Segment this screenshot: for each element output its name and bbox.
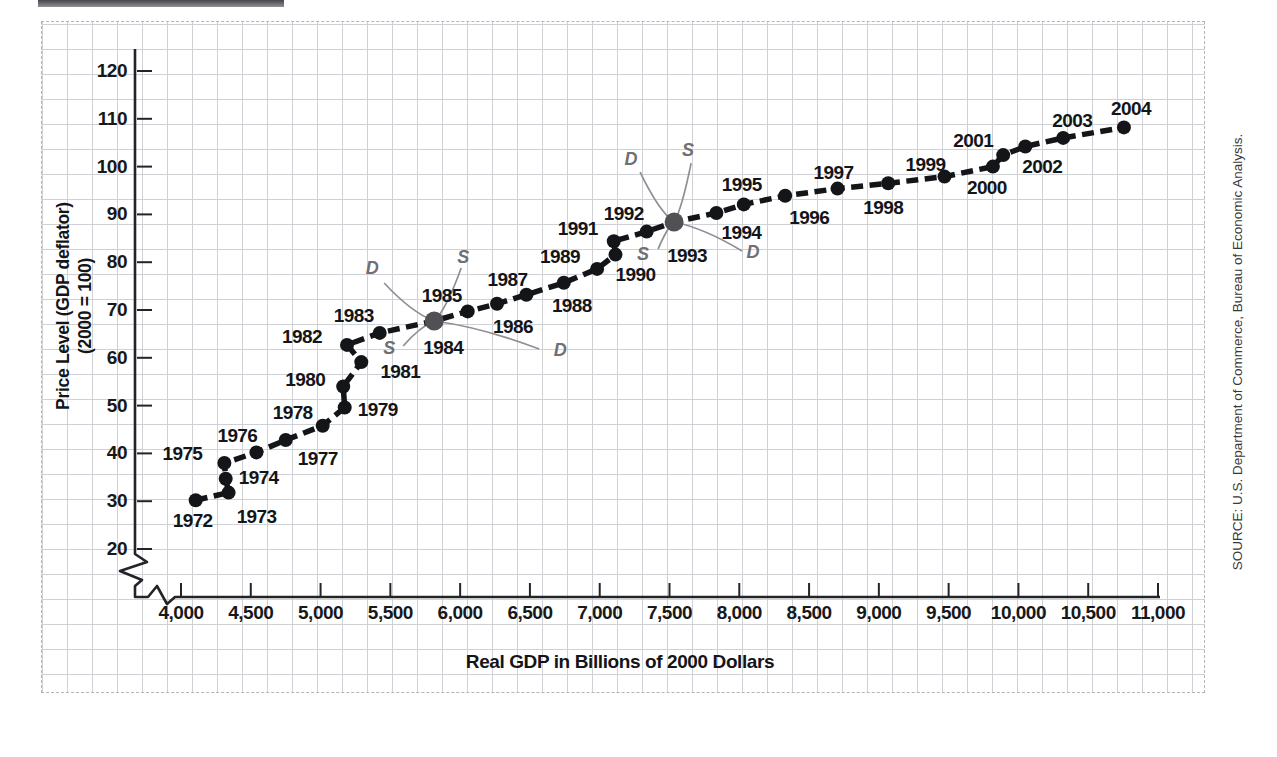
x-tick-label: 7,500 bbox=[647, 602, 692, 624]
y-tick-label: 40 bbox=[85, 442, 127, 464]
data-point-1972 bbox=[189, 493, 203, 507]
year-label-1995: 1995 bbox=[722, 174, 762, 196]
supply-label: S bbox=[637, 244, 649, 265]
year-label-1982: 1982 bbox=[282, 326, 322, 348]
data-point-1989 bbox=[590, 262, 604, 276]
x-tick-label: 11,000 bbox=[1131, 602, 1185, 624]
year-label-1972: 1972 bbox=[173, 510, 213, 532]
y-tick-label: 20 bbox=[85, 538, 127, 560]
x-tick-label: 7,000 bbox=[577, 602, 622, 624]
year-label-1987: 1987 bbox=[488, 269, 528, 291]
year-label-2003: 2003 bbox=[1052, 110, 1092, 132]
data-point-1997 bbox=[831, 182, 845, 196]
year-label-1977: 1977 bbox=[298, 448, 338, 470]
demand-label: D bbox=[554, 339, 567, 360]
supply-curve bbox=[658, 163, 691, 249]
x-tick-label: 6,500 bbox=[507, 602, 552, 624]
year-label-1974: 1974 bbox=[239, 467, 279, 489]
x-tick-label: 9,500 bbox=[926, 602, 971, 624]
data-point-1991 bbox=[607, 234, 621, 248]
x-tick-label: 6,000 bbox=[438, 602, 483, 624]
data-point-1973 bbox=[222, 486, 236, 500]
year-label-2004: 2004 bbox=[1111, 98, 1151, 120]
demand-label: D bbox=[366, 257, 379, 278]
data-point-1975 bbox=[217, 456, 231, 470]
data-point-1976 bbox=[249, 445, 263, 459]
year-label-1992: 1992 bbox=[604, 203, 644, 225]
x-tick-label: 8,000 bbox=[717, 602, 762, 624]
y-axis-title: Price Level (GDP deflator) (2000 = 100) bbox=[52, 202, 96, 410]
data-point-1980 bbox=[336, 380, 350, 394]
year-label-1986: 1986 bbox=[493, 316, 533, 338]
year-label-1998: 1998 bbox=[863, 197, 903, 219]
y-tick-label: 100 bbox=[85, 156, 127, 178]
data-point-1981 bbox=[354, 355, 368, 369]
supply-label: S bbox=[682, 140, 694, 161]
x-tick-label: 9,000 bbox=[856, 602, 901, 624]
demand-label: D bbox=[625, 149, 638, 170]
y-tick-label: 30 bbox=[85, 490, 127, 512]
year-label-1989: 1989 bbox=[540, 246, 580, 268]
data-point-2004 bbox=[1117, 120, 1131, 134]
x-axis-title: Real GDP in Billions of 2000 Dollars bbox=[466, 651, 774, 673]
data-point-1985 bbox=[461, 304, 475, 318]
data-point-1992 bbox=[640, 225, 654, 239]
data-point-1994 bbox=[709, 206, 723, 220]
year-label-1980: 1980 bbox=[285, 369, 325, 391]
year-label-1991: 1991 bbox=[558, 218, 598, 240]
data-point-1988 bbox=[557, 276, 571, 290]
data-point-1984 bbox=[425, 312, 444, 331]
data-point-2000 bbox=[986, 160, 1000, 174]
year-label-2000: 2000 bbox=[967, 177, 1007, 199]
x-tick-label: 4,500 bbox=[228, 602, 273, 624]
year-label-1999: 1999 bbox=[906, 154, 946, 176]
year-label-2002: 2002 bbox=[1022, 156, 1062, 178]
data-point-2002 bbox=[1018, 140, 1032, 154]
year-label-1993: 1993 bbox=[667, 245, 707, 267]
x-tick-label: 5,000 bbox=[298, 602, 343, 624]
source-note: SOURCE: U.S. Department of Commerce, Bur… bbox=[1230, 134, 1245, 571]
year-label-1990: 1990 bbox=[616, 264, 656, 286]
data-point-1993 bbox=[665, 213, 684, 232]
data-point-1996 bbox=[778, 189, 792, 203]
year-label-1983: 1983 bbox=[334, 305, 374, 327]
data-point-1979 bbox=[338, 401, 352, 415]
year-label-1973: 1973 bbox=[237, 506, 277, 528]
data-point-1974 bbox=[219, 472, 233, 486]
data-point-1995 bbox=[737, 197, 751, 211]
year-label-1997: 1997 bbox=[814, 162, 854, 184]
year-label-1978: 1978 bbox=[273, 402, 313, 424]
supply-label: S bbox=[383, 337, 395, 358]
supply-label: S bbox=[457, 246, 469, 267]
demand-label: D bbox=[747, 242, 760, 263]
x-tick-label: 4,000 bbox=[158, 602, 203, 624]
data-point-2001 bbox=[996, 148, 1010, 162]
year-label-1994: 1994 bbox=[721, 222, 761, 244]
data-point-1982 bbox=[340, 338, 354, 352]
year-label-1976: 1976 bbox=[217, 425, 257, 447]
year-label-1979: 1979 bbox=[358, 399, 398, 421]
y-axis-title-line1: Price Level (GDP deflator) bbox=[52, 202, 74, 410]
year-label-1985: 1985 bbox=[422, 285, 462, 307]
year-label-2001: 2001 bbox=[953, 130, 993, 152]
data-point-1998 bbox=[881, 176, 895, 190]
x-tick-label: 10,500 bbox=[1061, 602, 1116, 624]
x-tick-label: 10,000 bbox=[991, 602, 1046, 624]
year-label-1988: 1988 bbox=[552, 295, 592, 317]
x-tick-label: 5,500 bbox=[368, 602, 413, 624]
data-point-1986 bbox=[490, 297, 504, 311]
year-label-1996: 1996 bbox=[789, 207, 829, 229]
data-point-1978 bbox=[316, 419, 330, 433]
year-label-1981: 1981 bbox=[380, 361, 420, 383]
year-label-1975: 1975 bbox=[162, 443, 202, 465]
y-tick-label: 110 bbox=[85, 108, 127, 130]
data-point-1990 bbox=[609, 248, 623, 262]
x-tick-label: 8,500 bbox=[787, 602, 832, 624]
figure-page: 20304050607080901001101204,0004,5005,000… bbox=[0, 0, 1277, 757]
data-point-2003 bbox=[1056, 131, 1070, 145]
year-label-1984: 1984 bbox=[423, 337, 463, 359]
y-tick-label: 120 bbox=[85, 60, 127, 82]
data-point-1977 bbox=[279, 433, 293, 447]
y-axis-title-line2: (2000 = 100) bbox=[74, 202, 96, 410]
